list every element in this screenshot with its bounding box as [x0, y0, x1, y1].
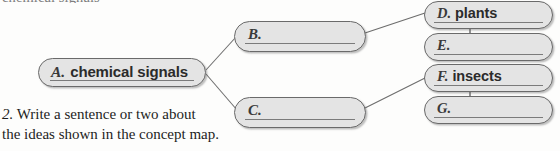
answer-rule-line-e [434, 54, 543, 55]
concept-node-b[interactable]: B. [234, 21, 366, 52]
concept-node-c[interactable]: C. [234, 97, 366, 128]
connector-a-to-b [206, 37, 236, 70]
answer-rule-line-g [434, 117, 543, 118]
node-answer-f: insects [452, 69, 501, 84]
worksheet-page: chemical signals A. chemical signals B. [0, 0, 560, 151]
answer-rule-line-c [245, 119, 355, 120]
concept-node-f[interactable]: F. insects [424, 64, 553, 92]
concept-node-e[interactable]: E. [424, 33, 553, 61]
node-letter-d: D. [437, 6, 451, 21]
question-number: 2. [2, 106, 13, 122]
concept-node-g[interactable]: G. [424, 96, 553, 124]
concept-node-a[interactable]: A. chemical signals [38, 58, 206, 87]
node-answer-d: plants [455, 6, 497, 21]
node-letter-g: G. [437, 101, 451, 116]
answer-rule-line-b [245, 43, 355, 44]
concept-node-d[interactable]: D. plants [424, 1, 553, 29]
node-letter-b: B. [248, 27, 262, 42]
question-prompt: 2. Write a sentence or two about the ide… [2, 104, 238, 144]
connector-c-to-f [365, 78, 425, 108]
question-line-1: Write a sentence or two about [17, 106, 196, 122]
question-line-2: the ideas shown in the concept map. [2, 124, 238, 144]
answer-rule-line-d [434, 22, 543, 23]
node-letter-a: A. [51, 64, 65, 80]
node-letter-f: F. [437, 69, 448, 84]
answer-rule-line-a [50, 80, 194, 81]
node-letter-c: C. [248, 103, 262, 118]
connector-b-to-d [365, 13, 425, 33]
node-letter-e: E. [437, 38, 450, 53]
answer-rule-line-f [434, 85, 543, 86]
node-answer-a: chemical signals [70, 64, 188, 79]
